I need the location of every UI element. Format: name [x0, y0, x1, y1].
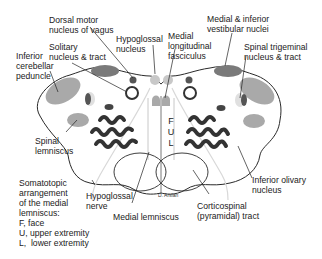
label-hypoglossal-nerve: Hypoglossal nerve: [86, 191, 133, 211]
dorsal-motor-right: [186, 77, 193, 84]
label-medial-lemniscus: Medial lemniscus: [113, 212, 179, 222]
vestibular-right: [214, 65, 242, 77]
inferior-olive-left: [92, 117, 136, 147]
solitary-right: [184, 87, 196, 99]
solitary-left: [126, 87, 138, 99]
label-l: L: [166, 138, 176, 149]
spinal-lemniscus-left: [67, 113, 89, 127]
label-u: U: [166, 127, 176, 138]
mlf-left: [152, 96, 160, 107]
label-solitary-nucleus: Solitary nucleus & tract: [49, 42, 106, 62]
nucleus-ambiguus-right: [217, 105, 226, 111]
pyramid-left: [114, 153, 166, 191]
pyramid-right: [156, 153, 208, 191]
label-spinal-lemniscus: Spinal lemniscus: [35, 136, 73, 156]
label-corticospinal-tract: Corticospinal (pyramidal) tract: [197, 201, 259, 221]
label-vestibular-nuclei: Medial & inferior vestibular nuclei: [207, 14, 269, 34]
label-hypoglossal-nucleus: Hypoglossal nucleus: [116, 34, 163, 54]
inferior-olive-right: [186, 117, 228, 147]
label-inferior-cerebellar-peduncle: Inferior cerebellar peduncle: [16, 51, 54, 81]
spinal-lemniscus-right: [243, 114, 265, 128]
spinal-trigeminal-tract-left: [85, 93, 91, 105]
label-inferior-olivary-nucleus: Inferior olivary nucleus: [252, 175, 306, 195]
label-dorsal-motor-nucleus: Dorsal motor nucleus of vagus: [49, 15, 114, 35]
mlf-right: [162, 96, 170, 107]
hypoglossal-nucleus-left: [150, 75, 160, 85]
spinal-trigeminal-tract-right: [241, 94, 247, 106]
label-spinal-trigeminal: Spinal trigeminal nucleus & tract: [244, 42, 308, 62]
author-credit: D. Arslan: [158, 190, 178, 200]
label-medial-longitudinal-fasciculus: Medial longitudinal fasciculus: [168, 31, 211, 61]
nucleus-ambiguus-left: [105, 104, 114, 110]
label-f: F: [166, 116, 176, 127]
label-somatotopic-arrangement: Somatotopic arrangement of the medial le…: [19, 178, 89, 248]
